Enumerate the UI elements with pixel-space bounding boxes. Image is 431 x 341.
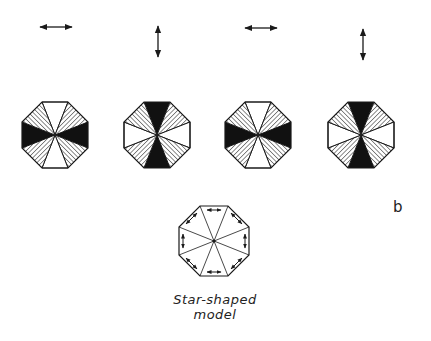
caption-line-2: model	[160, 307, 270, 322]
star-shaped-model	[179, 206, 249, 276]
panel-label: b	[393, 198, 403, 216]
octagon-pattern-2	[124, 102, 190, 168]
figure-canvas	[0, 0, 431, 341]
model-caption: Star-shaped model	[160, 292, 270, 322]
octagon-pattern-3	[225, 102, 291, 168]
octagon-pattern-1	[22, 102, 88, 168]
caption-line-1: Star-shaped	[160, 292, 270, 307]
octagon-pattern-4	[328, 102, 394, 168]
